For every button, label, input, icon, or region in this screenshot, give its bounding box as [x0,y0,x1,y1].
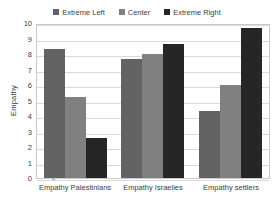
y-axis-tick-label: 9 [28,36,32,44]
bar[interactable] [86,138,107,178]
legend-entry[interactable]: Extreme Left [53,8,105,17]
y-axis-tick-label: 6 [28,82,32,90]
bar-group [114,25,191,178]
y-axis-title: Empathy [9,71,18,131]
bar[interactable] [142,54,163,178]
bar[interactable] [199,111,220,178]
y-axis-tick-label: 8 [28,51,32,59]
y-axis-tick-label: 7 [28,67,32,75]
bar-group [192,25,269,178]
bar[interactable] [241,28,262,178]
y-axis-tick-label: 1 [28,160,32,168]
x-axis-tick-label: Empathy settlers [192,183,270,193]
y-axis-tick-label: 0 [28,175,32,183]
legend-label: Center [128,8,151,17]
bar[interactable] [121,59,142,178]
y-axis-tick-label: 4 [28,113,32,121]
legend-swatch-icon [119,9,125,15]
legend-label: Extreme Right [173,8,221,17]
bar-group [37,25,114,178]
x-axis-tick-label: Empathy Israelies [114,183,192,193]
bar[interactable] [44,49,65,178]
legend-entry[interactable]: Extreme Right [164,8,221,17]
legend-label: Extreme Left [62,8,105,17]
gridline [37,180,269,181]
legend-swatch-icon [53,9,59,15]
bars-layer [37,25,269,178]
x-axis-tick-labels: Empathy PalestiniansEmpathy IsraeliesEmp… [36,183,270,193]
y-axis-tick-label: 5 [28,98,32,106]
grouped-bar-chart: Extreme LeftCenterExtreme Right Empathy … [0,0,274,209]
y-axis-tick-label: 2 [28,144,32,152]
y-axis-tick-labels: 109876543210 [18,24,32,179]
bar[interactable] [220,85,241,178]
legend-entry[interactable]: Center [119,8,151,17]
bar[interactable] [163,44,184,178]
bar[interactable] [65,97,86,178]
chart-legend: Extreme LeftCenterExtreme Right [0,4,274,20]
y-axis-tick-label: 10 [24,20,32,28]
y-axis-tick-label: 3 [28,129,32,137]
plot-area [36,24,270,179]
legend-swatch-icon [164,9,170,15]
x-axis-tick-label: Empathy Palestinians [36,183,114,193]
